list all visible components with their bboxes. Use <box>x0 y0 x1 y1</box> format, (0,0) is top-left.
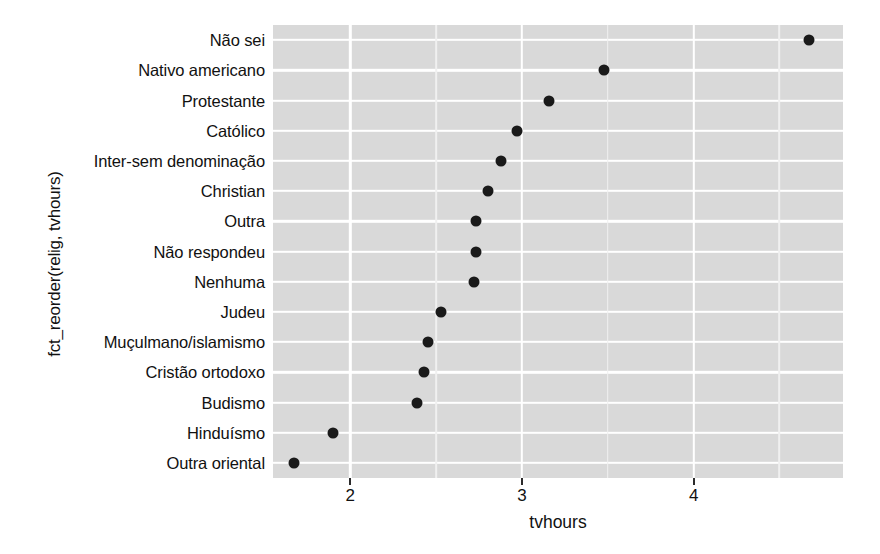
data-point <box>436 306 447 317</box>
gridline-vertical-major <box>692 25 694 478</box>
x-axis-tick-mark <box>693 478 695 485</box>
gridline-horizontal <box>273 311 843 313</box>
gridline-horizontal <box>273 371 843 373</box>
y-axis-tick-label: Nenhuma <box>60 272 265 291</box>
y-axis-tick-label: Outra oriental <box>60 453 265 472</box>
y-axis-tick-label: Muçulmano/islamismo <box>60 333 265 352</box>
gridline-horizontal <box>273 129 843 131</box>
data-point <box>511 125 522 136</box>
gridline-vertical-minor <box>779 25 781 478</box>
data-point <box>544 95 555 106</box>
data-point <box>496 155 507 166</box>
gridline-horizontal <box>273 190 843 192</box>
y-axis-tick-labels: Não seiNativo americanoProtestanteCatóli… <box>60 25 265 478</box>
gridline-horizontal <box>273 160 843 162</box>
x-axis-tick-label: 2 <box>346 486 355 506</box>
y-axis-tick-label: Protestante <box>60 91 265 110</box>
gridline-horizontal <box>273 250 843 252</box>
data-point <box>422 337 433 348</box>
data-point <box>803 35 814 46</box>
gridline-vertical-minor <box>435 25 437 478</box>
data-point <box>288 457 299 468</box>
gridline-horizontal <box>273 431 843 433</box>
gridline-vertical-minor <box>607 25 609 478</box>
y-axis-tick-label: Christian <box>60 182 265 201</box>
data-point <box>412 397 423 408</box>
data-point <box>470 216 481 227</box>
gridline-horizontal <box>273 99 843 101</box>
gridline-horizontal <box>273 220 843 222</box>
y-axis-tick-label: Nativo americano <box>60 61 265 80</box>
y-axis-tick-label: Cristão ortodoxo <box>60 363 265 382</box>
x-axis-tick-mark <box>349 478 351 485</box>
dot-plot-chart: fct_reorder(relig, tvhours) Não seiNativ… <box>0 0 880 554</box>
y-axis-tick-label: Budismo <box>60 393 265 412</box>
y-axis-tick-label: Judeu <box>60 302 265 321</box>
x-axis-title: tvhours <box>273 512 843 533</box>
y-axis-tick-label: Não sei <box>60 31 265 50</box>
gridline-horizontal <box>273 39 843 41</box>
data-point <box>470 246 481 257</box>
gridline-vertical-major <box>349 25 351 478</box>
x-axis-tick-label: 3 <box>517 486 526 506</box>
data-point <box>328 427 339 438</box>
gridline-vertical-major <box>521 25 523 478</box>
data-point <box>599 65 610 76</box>
data-point <box>468 276 479 287</box>
x-axis-tick-mark <box>521 478 523 485</box>
gridline-horizontal <box>273 280 843 282</box>
y-axis-tick-label: Inter-sem denominação <box>60 151 265 170</box>
y-axis-tick-label: Não respondeu <box>60 242 265 261</box>
data-point <box>482 186 493 197</box>
data-point <box>419 367 430 378</box>
gridline-horizontal <box>273 401 843 403</box>
gridline-horizontal <box>273 69 843 71</box>
gridline-horizontal <box>273 341 843 343</box>
gridline-horizontal <box>273 462 843 464</box>
plot-panel <box>273 25 843 478</box>
y-axis-tick-label: Católico <box>60 121 265 140</box>
x-axis-tick-label: 4 <box>689 486 698 506</box>
x-axis-ticks: 234 <box>273 478 843 508</box>
y-axis-tick-label: Hinduísmo <box>60 423 265 442</box>
y-axis-tick-label: Outra <box>60 212 265 231</box>
